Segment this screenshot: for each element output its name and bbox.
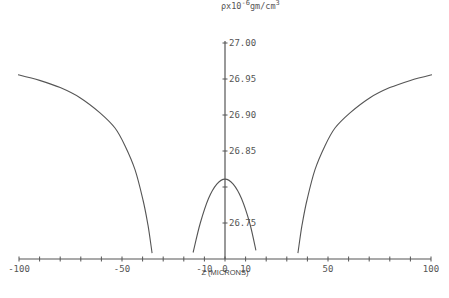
y-tick-label: 26.75 — [229, 218, 256, 228]
y-tick-label: 26.90 — [229, 110, 256, 120]
y-tick-label: 26.95 — [229, 74, 256, 84]
left-branch-curve — [18, 75, 152, 254]
x-tick-label: -100 — [8, 264, 30, 274]
y-tick-label: 26.85 — [229, 146, 256, 156]
y-axis: 26.7526.8526.9026.9527.00 — [223, 38, 257, 259]
x-tick-label: 100 — [423, 264, 439, 274]
density-profile-chart: -100-50-1001050100 26.7526.8526.9026.952… — [0, 0, 449, 298]
x-axis-title: Z (MICRONS) — [201, 268, 249, 277]
y-axis-title: ρx10-6gm/cm3 — [221, 0, 280, 11]
y-tick-label: 27.00 — [229, 38, 256, 48]
x-tick-label: 50 — [323, 264, 334, 274]
right-branch-curve — [298, 75, 432, 254]
x-tick-label: -50 — [114, 264, 130, 274]
